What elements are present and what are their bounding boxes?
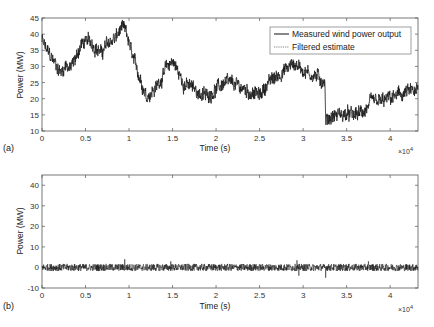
panel-b-label: (b)	[3, 301, 14, 311]
y-tick-label: 10	[30, 243, 39, 252]
legend: Measured wind power output Filtered esti…	[270, 27, 411, 54]
y-tick-label: 0	[35, 263, 40, 272]
y-tick-label: 20	[30, 95, 39, 104]
x-tick-label: 1	[127, 291, 132, 300]
y-tick-label: -10	[27, 284, 39, 293]
x-tick-label: 0.5	[80, 134, 92, 143]
x-tick-label: 2.5	[254, 291, 266, 300]
panel-a-plot: 00.511.522.533.541015202530354045 Time (…	[3, 14, 418, 155]
panel-b-ylabel: Power (MW)	[15, 207, 25, 254]
y-tick-label: 10	[30, 127, 39, 136]
y-tick-label: 35	[30, 46, 39, 55]
panel-b-plot: 00.511.522.533.54-10010203040 Time (s) P…	[3, 175, 418, 313]
legend-filtered-label: Filtered estimate	[292, 42, 355, 52]
x-tick-label: 4	[388, 134, 393, 143]
x-tick-label: 3	[301, 291, 306, 300]
x-tick-label: 0.5	[80, 291, 92, 300]
x-tick-label: 1.5	[167, 291, 179, 300]
x-tick-label: 1.5	[167, 134, 179, 143]
x-tick-label: 0	[40, 134, 45, 143]
y-tick-label: 45	[30, 14, 39, 23]
y-tick-label: 30	[30, 62, 39, 71]
x-tick-label: 4	[388, 291, 393, 300]
x-tick-label: 2	[214, 291, 219, 300]
panel-b-x-multiplier: ×104	[398, 304, 413, 313]
x-tick-label: 3.5	[341, 134, 353, 143]
y-tick-label: 40	[30, 30, 39, 39]
panel-a-label: (a)	[3, 143, 14, 153]
panel-b-xlabel: Time (s)	[200, 301, 231, 311]
y-tick-label: 15	[30, 111, 39, 120]
y-tick-label: 20	[30, 222, 39, 231]
y-tick-label: 30	[30, 202, 39, 211]
x-tick-label: 1	[127, 134, 132, 143]
panel-a-xlabel: Time (s)	[200, 143, 231, 153]
y-tick-label: 40	[30, 181, 39, 190]
x-tick-label: 0	[40, 291, 45, 300]
x-tick-label: 2	[214, 134, 219, 143]
x-tick-label: 3	[301, 134, 306, 143]
legend-measured-label: Measured wind power output	[292, 29, 402, 39]
x-tick-label: 2.5	[254, 134, 266, 143]
y-tick-label: 25	[30, 79, 39, 88]
figure: 00.511.522.533.541015202530354045 Time (…	[0, 0, 434, 327]
panel-a-ylabel: Power (MW)	[15, 51, 25, 98]
panel-a-x-multiplier: ×104	[398, 146, 413, 155]
x-tick-label: 3.5	[341, 291, 353, 300]
